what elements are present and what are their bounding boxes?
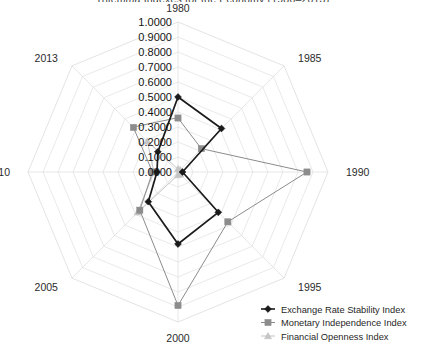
radial-tick-0.9000: 0.9000 bbox=[138, 31, 172, 43]
legend-item-monetary-independence-index[interactable]: Monetary Independence Index bbox=[261, 318, 407, 328]
legend-item-exchange-rate-stability-index[interactable]: Exchange Rate Stability Index bbox=[261, 305, 405, 315]
legend-label: Financial Openness Index bbox=[281, 332, 389, 342]
radial-tick-0.5000: 0.5000 bbox=[138, 91, 172, 103]
radial-tick-0.3000: 0.3000 bbox=[138, 121, 172, 133]
spoke-label-1980: 1980 bbox=[166, 2, 190, 14]
radial-tick-0.8000: 0.8000 bbox=[138, 46, 172, 58]
data-point-1980 bbox=[175, 115, 181, 121]
radar-plot-area: 0.00000.10000.20000.30000.40000.50000.60… bbox=[0, 0, 425, 342]
data-point-2013 bbox=[130, 124, 136, 130]
radial-tick-0.0000: 0.0000 bbox=[138, 166, 172, 178]
radial-tick-labels: 0.00000.10000.20000.30000.40000.50000.60… bbox=[138, 16, 172, 178]
legend-item-financial-openness-index[interactable]: Financial Openness Index bbox=[261, 332, 389, 342]
spoke-label-2005: 2005 bbox=[35, 281, 59, 293]
spoke-label-1985: 1985 bbox=[298, 52, 322, 64]
chart-legend[interactable]: Exchange Rate Stability IndexMonetary In… bbox=[261, 305, 407, 342]
radial-tick-0.2000: 0.2000 bbox=[138, 136, 172, 148]
radial-tick-0.1000: 0.1000 bbox=[138, 151, 172, 163]
radial-tick-0.6000: 0.6000 bbox=[138, 76, 172, 88]
radial-tick-1.0000: 1.0000 bbox=[138, 16, 172, 28]
legend-square-marker bbox=[265, 319, 271, 325]
radar-chart: Trilemma Indexes for the Economy (1980–2… bbox=[0, 0, 425, 342]
data-point-2000 bbox=[175, 302, 181, 308]
data-point-2005 bbox=[137, 207, 143, 213]
radial-tick-0.7000: 0.7000 bbox=[138, 61, 172, 73]
data-point-1995 bbox=[225, 219, 231, 225]
radial-tick-0.4000: 0.4000 bbox=[138, 106, 172, 118]
legend-label: Monetary Independence Index bbox=[281, 318, 407, 328]
spoke-label-1990: 1990 bbox=[346, 166, 370, 178]
spoke-label-2010: 2010 bbox=[0, 166, 10, 178]
data-point-1990 bbox=[304, 169, 310, 175]
spoke-label-1995: 1995 bbox=[298, 281, 322, 293]
legend-diamond-marker bbox=[265, 306, 272, 313]
spoke-label-2000: 2000 bbox=[166, 332, 190, 342]
spoke-label-2013: 2013 bbox=[35, 52, 59, 64]
legend-label: Exchange Rate Stability Index bbox=[281, 305, 405, 315]
